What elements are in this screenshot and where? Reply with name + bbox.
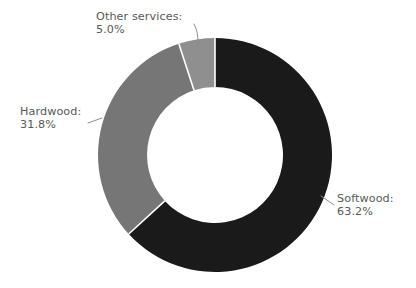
slice-hardwood[interactable] <box>98 44 194 234</box>
slice-label-hardwood-value: 31.8% <box>20 118 81 131</box>
slice-label-hardwood: Hardwood: 31.8% <box>20 105 81 132</box>
leader-line-hardwood <box>88 118 102 123</box>
slice-label-other-services-name: Other services: <box>96 10 183 23</box>
slice-label-softwood-name: Softwood: <box>337 192 394 205</box>
donut-chart-svg <box>0 0 416 288</box>
slice-label-other-services-value: 5.0% <box>96 23 183 36</box>
slice-label-hardwood-name: Hardwood: <box>20 105 81 118</box>
donut-chart: Other services: 5.0% Hardwood: 31.8% Sof… <box>0 0 416 288</box>
slice-label-softwood: Softwood: 63.2% <box>337 192 394 219</box>
slice-label-softwood-value: 63.2% <box>337 205 394 218</box>
leader-line-softwood <box>321 196 334 205</box>
slice-label-other-services: Other services: 5.0% <box>96 10 183 37</box>
